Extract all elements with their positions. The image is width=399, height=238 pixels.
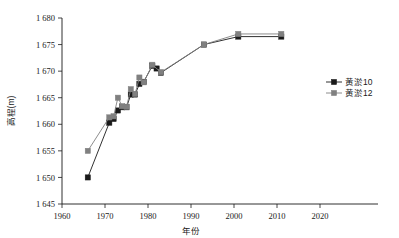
- y-tick-label: 1 650: [36, 173, 55, 183]
- data-point-marker: [201, 42, 206, 47]
- legend-item[interactable]: 黄淤10: [326, 77, 373, 87]
- x-tick-label: 1970: [97, 211, 114, 221]
- x-tick-label: 2010: [269, 211, 286, 221]
- data-point-marker: [158, 70, 163, 75]
- data-point-marker: [111, 114, 116, 119]
- x-tick-label: 2020: [312, 211, 329, 221]
- legend-item[interactable]: 黄淤12: [326, 88, 373, 98]
- legend-marker: [331, 79, 336, 84]
- y-tick-label: 1 675: [36, 40, 55, 50]
- data-point-marker: [236, 31, 241, 36]
- series-line: [88, 37, 281, 178]
- legend-marker: [331, 90, 336, 95]
- data-point-marker: [279, 31, 284, 36]
- data-point-marker: [141, 80, 146, 85]
- series-2: [85, 31, 284, 153]
- data-point-marker: [115, 95, 120, 100]
- y-tick-label: 1 655: [36, 146, 55, 156]
- data-point-marker: [128, 87, 133, 92]
- chart-container: 1 6451 6501 6551 6601 6651 6701 6751 680…: [0, 0, 399, 238]
- data-point-marker: [150, 62, 155, 67]
- elevation-time-series-chart: 1 6451 6501 6551 6601 6651 6701 6751 680…: [0, 0, 399, 238]
- x-tick-label: 1960: [54, 211, 71, 221]
- y-axis-title: 高程(m): [6, 95, 16, 126]
- x-tick-label: 2000: [226, 211, 243, 221]
- y-tick-label: 1 670: [36, 66, 55, 76]
- data-point-marker: [85, 175, 90, 180]
- y-tick-label: 1 660: [36, 119, 55, 129]
- series-1: [85, 34, 284, 180]
- x-axis-title: 年份: [182, 226, 200, 236]
- legend-label: 黄淤12: [345, 88, 373, 98]
- y-tick-label: 1 680: [36, 13, 55, 23]
- data-point-marker: [133, 91, 138, 96]
- data-point-marker: [137, 75, 142, 80]
- x-tick-label: 1990: [183, 211, 200, 221]
- legend-label: 黄淤10: [345, 77, 373, 87]
- y-tick-label: 1 645: [36, 199, 55, 209]
- series-line: [88, 34, 281, 151]
- x-tick-label: 1980: [140, 211, 157, 221]
- data-point-marker: [124, 104, 129, 109]
- data-point-marker: [85, 148, 90, 153]
- y-tick-label: 1 665: [36, 93, 55, 103]
